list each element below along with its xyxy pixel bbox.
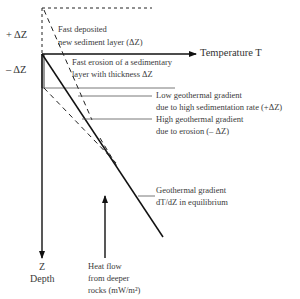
heat-flow-label-1: Heat flow xyxy=(88,261,122,272)
high-gradient-label-2: due to erosion (– ΔZ) xyxy=(156,126,229,137)
low-gradient-label-1: Low geothermal gradient xyxy=(156,90,242,101)
diagram-graphics xyxy=(0,0,300,299)
deposited-label-1: Fast deposited xyxy=(58,24,107,35)
heat-flow-label-2: from deeper xyxy=(88,273,129,284)
low-gradient-label-2: due to high sedimentation rate (+ΔZ) xyxy=(156,102,282,113)
erosion-label-2: layer with thickness ΔZ xyxy=(72,69,153,80)
erosion-label-1: Fast erosion of a sedimentary xyxy=(72,57,172,68)
equilibrium-label-2: dT/dZ in equilibrium xyxy=(156,197,228,208)
high-gradient-dashed-line xyxy=(44,88,118,165)
deposited-label-2: new sediment layer (ΔZ) xyxy=(58,37,143,48)
temperature-axis-label: Temperature T xyxy=(200,47,262,58)
geothermal-gradient-diagram: + ΔZ – ΔZ Fast deposited new sediment la… xyxy=(0,0,300,299)
equilibrium-gradient-line xyxy=(42,54,163,237)
high-gradient-label-1: High geothermal gradient xyxy=(156,114,243,125)
depth-axis-symbol: Z xyxy=(39,261,45,272)
heat-flow-label-3: rocks (mW/m²) xyxy=(88,285,140,296)
equilibrium-label-1: Geothermal gradient xyxy=(156,185,226,196)
depth-axis-label: Depth xyxy=(30,273,54,284)
dashed-continuation xyxy=(100,138,118,168)
plus-delta-z-marker: + ΔZ xyxy=(6,29,27,40)
minus-delta-z-marker: – ΔZ xyxy=(6,64,26,75)
